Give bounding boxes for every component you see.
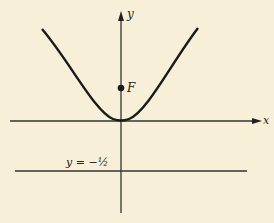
parabola-curve: [42, 28, 198, 121]
focus-label: F: [127, 82, 135, 94]
x-axis-label: x: [263, 115, 269, 126]
y-axis-arrow-icon: [118, 11, 124, 21]
y-axis-label: y: [127, 8, 134, 20]
parabola-diagram: [0, 0, 274, 223]
x-axis-arrow-icon: [252, 118, 262, 124]
directrix-label: y = −½: [66, 157, 108, 168]
focus-point: [118, 85, 125, 92]
